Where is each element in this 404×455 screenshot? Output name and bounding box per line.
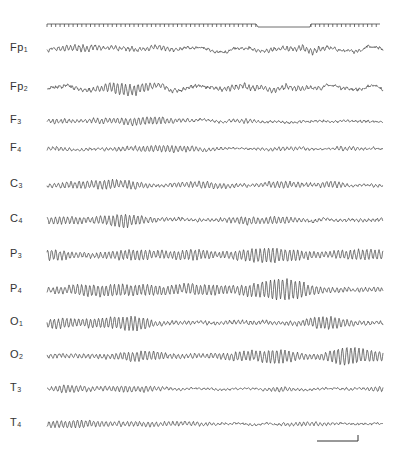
channel-label-subscript: 3 (18, 252, 22, 259)
eeg-traces (0, 0, 404, 455)
channel-label-f4: F4 (10, 142, 21, 153)
eeg-trace-c4 (47, 214, 383, 227)
channel-label-base: Fp (10, 41, 24, 53)
channel-label-subscript: 1 (24, 46, 28, 53)
channel-label-c3: C3 (10, 178, 22, 189)
channel-traces (47, 44, 383, 428)
channel-label-subscript: 2 (24, 85, 28, 92)
channel-label-subscript: 4 (17, 421, 21, 428)
channel-label-fp2: Fp2 (10, 81, 28, 92)
eeg-trace-f3 (47, 117, 383, 126)
eeg-trace-p3 (47, 248, 383, 263)
channel-label-subscript: 3 (17, 386, 21, 393)
channel-label-subscript: 2 (19, 353, 23, 360)
eeg-trace-o2 (47, 347, 383, 365)
channel-label-p4: P4 (10, 283, 22, 294)
channel-label-base: O (10, 315, 19, 327)
channel-label-base: P (10, 247, 18, 259)
channel-label-f3: F3 (10, 114, 21, 125)
channel-label-subscript: 1 (19, 320, 23, 327)
eeg-trace-fp2 (47, 83, 383, 96)
channel-label-fp1: Fp1 (10, 42, 28, 53)
calibration-bar (317, 435, 358, 441)
channel-label-o1: O1 (10, 316, 23, 327)
eeg-trace-c3 (47, 179, 383, 189)
eeg-trace-fp1 (47, 44, 383, 55)
channel-label-base: O (10, 348, 19, 360)
channel-label-c4: C4 (10, 213, 22, 224)
channel-label-subscript: 3 (18, 182, 22, 189)
channel-label-subscript: 4 (18, 287, 22, 294)
channel-label-p3: P3 (10, 248, 22, 259)
channel-label-base: Fp (10, 80, 24, 92)
time-marker-line (47, 24, 380, 27)
channel-label-subscript: 4 (17, 146, 21, 153)
eeg-trace-o1 (47, 316, 383, 331)
channel-label-subscript: 3 (17, 118, 21, 125)
eeg-trace-t4 (47, 420, 383, 428)
channel-label-subscript: 4 (18, 217, 22, 224)
channel-label-t4: T4 (10, 417, 21, 428)
eeg-trace-p4 (47, 279, 383, 300)
eeg-trace-t3 (47, 385, 383, 393)
eeg-figure: Fp1Fp2F3F4C3C4P3P4O1O2T3T4 (0, 0, 404, 455)
time-marker (47, 24, 380, 27)
channel-label-t3: T3 (10, 382, 21, 393)
channel-label-base: P (10, 282, 18, 294)
eeg-trace-f4 (47, 145, 383, 152)
scale-bar (317, 435, 358, 441)
channel-label-o2: O2 (10, 349, 23, 360)
